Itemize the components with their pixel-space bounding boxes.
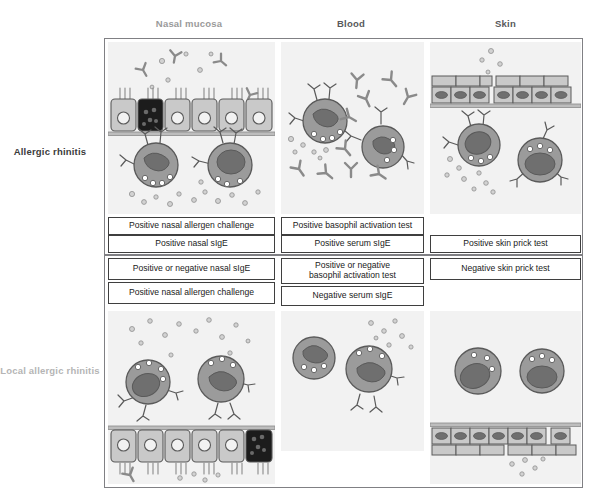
result-box-skin-prick-lar: Negative skin prick test	[430, 258, 581, 280]
mast-cell	[118, 360, 183, 421]
mast-cell-plain	[455, 348, 501, 394]
free-ige-icon	[214, 54, 230, 70]
epithelium-squamous	[432, 428, 576, 455]
column-header-blood: Blood	[278, 18, 424, 29]
illustration-blood-local-allergic-rhinitis	[281, 311, 424, 451]
free-ige-icon	[345, 163, 357, 177]
result-box-skin-prick-ar: Positive skin prick test	[430, 235, 581, 253]
result-box-nasal-sige-lar: Positive or negative nasal sIgE	[108, 258, 275, 280]
result-box-serum-sige-lar: Negative serum sIgE	[281, 286, 424, 306]
row-label-allergic-rhinitis: Allergic rhinitis	[0, 146, 100, 157]
illustration-skin-allergic-rhinitis	[430, 42, 581, 214]
illustration-nasal-mucosa-allergic-rhinitis	[108, 42, 275, 214]
column-header-skin: Skin	[428, 18, 583, 29]
free-ige-icon	[399, 89, 416, 107]
mast-cell	[198, 356, 255, 419]
mast-cell	[120, 127, 178, 187]
result-box-serum-sige-ar: Positive serum sIgE	[281, 235, 424, 253]
illustration-skin-local-allergic-rhinitis	[430, 311, 581, 484]
illustration-nasal-mucosa-local-allergic-rhinitis	[108, 311, 275, 484]
free-ige-icon	[291, 161, 309, 179]
granule-group-lower	[510, 457, 545, 476]
basophil-cell	[345, 107, 414, 169]
epithelium-squamous	[432, 76, 571, 103]
row-label-local-allergic-rhinitis: Local allergic rhinitis	[0, 365, 100, 376]
epithelium-columnar	[111, 430, 272, 462]
basophil-cell	[346, 346, 404, 412]
result-box-bat-ar: Positive basophil activation test	[281, 217, 424, 235]
basophil-cell	[289, 83, 347, 143]
mast-cell	[192, 127, 252, 187]
granule-group-upper	[150, 52, 213, 89]
mast-cell-plain	[520, 349, 564, 393]
figure-frame: Positive nasal allergen challenge Positi…	[104, 38, 583, 488]
granule-group-upper	[480, 49, 503, 75]
free-ige-icon	[358, 91, 375, 109]
basophil-cell-plain	[293, 337, 335, 379]
free-ige-icon	[136, 63, 152, 79]
free-ige-icon	[318, 165, 336, 183]
row-divider	[105, 254, 582, 256]
result-box-nasal-sige-ar: Positive nasal sIgE	[108, 235, 275, 253]
result-box-bat-lar: Positive or negative basophil activation…	[281, 258, 424, 284]
free-ige-icon	[337, 141, 355, 159]
result-box-nasal-challenge-lar: Positive nasal allergen challenge	[108, 282, 275, 304]
result-box-nasal-challenge-ar: Positive nasal allergen challenge	[108, 217, 275, 235]
mast-cell	[510, 122, 568, 187]
free-ige-icon	[168, 50, 181, 63]
granule-group-upper	[130, 318, 251, 357]
granule-group	[369, 319, 414, 349]
free-ige-icon	[350, 73, 363, 88]
illustration-blood-allergic-rhinitis	[281, 42, 424, 214]
column-header-nasal-mucosa: Nasal mucosa	[104, 18, 274, 29]
epithelium-columnar	[111, 99, 272, 131]
free-ige-icon	[383, 72, 401, 90]
